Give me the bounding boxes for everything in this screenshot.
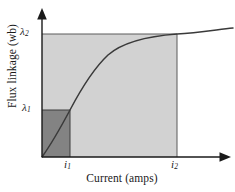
y-axis-title: Flux linkage (wb) [6,11,18,121]
lambda2-subscript: 2 [25,29,29,38]
x-axis-arrow-icon [220,152,232,162]
x-tick-label-i1: i1 [64,158,71,171]
y-tick-label-lambda2: λ2 [20,25,29,38]
i1-subscript: 1 [67,162,71,171]
y-axis-arrow-icon [37,8,47,20]
lambda1-subscript: 1 [27,105,31,114]
x-tick-label-i2: i2 [171,158,178,171]
flux-linkage-chart: Flux linkage (wb) Current (amps) λ2 λ1 i… [0,0,235,192]
y-tick-label-lambda1: λ1 [22,101,31,114]
x-axis-title: Current (amps) [62,172,182,184]
i2-subscript: 2 [174,162,178,171]
chart-canvas [0,0,235,192]
